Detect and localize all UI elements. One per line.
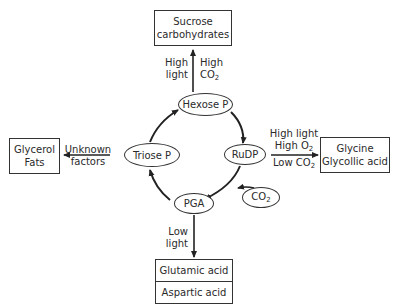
arrow-hexose-to-rudp [231,112,243,143]
hexose-p-node: Hexose P [178,93,233,116]
glycine-label: Glycine [336,142,373,155]
sucrose-condition-right: High CO2 [200,57,223,84]
carbohydrates-label: carbohydrates [157,28,229,41]
co2-node: CO2 [242,187,280,208]
hexose-p-label: Hexose P [183,99,229,110]
co2-label: CO2 [251,191,270,204]
triose-p-node: Triose P [124,143,180,167]
glycerol-condition: Unknown factors [64,144,112,168]
fats-label: Fats [24,156,44,169]
amino-condition: Low light [160,226,188,250]
sucrose-box: Sucrose carbohydrates [154,10,232,46]
glycine-condition: High light High O2 Low CO2 [266,128,322,172]
aspartic-acid-label: Aspartic acid [162,286,227,299]
glutamic-acid-cell: Glutamic acid [156,260,232,281]
rudp-node: RuDP [224,144,266,165]
amino-acids-box: Glutamic acid Aspartic acid [155,259,233,304]
sucrose-label: Sucrose [173,15,213,28]
arrow-triose-to-hexose [150,110,178,142]
glycine-box: Glycine Glycollic acid [320,137,390,173]
pga-label: PGA [184,198,205,209]
glycerol-label: Glycerol [14,143,55,156]
glutamic-acid-label: Glutamic acid [160,264,229,277]
glycerol-box: Glycerol Fats [9,138,60,174]
arrow-pga-to-triose [150,170,170,200]
arrow-rudp-to-pga [205,166,240,199]
pga-node: PGA [174,193,214,214]
rudp-label: RuDP [232,149,259,160]
aspartic-acid-cell: Aspartic acid [156,281,232,303]
sucrose-condition-left: High light [160,57,188,81]
triose-p-label: Triose P [133,150,171,161]
glycollic-acid-label: Glycollic acid [322,155,388,168]
